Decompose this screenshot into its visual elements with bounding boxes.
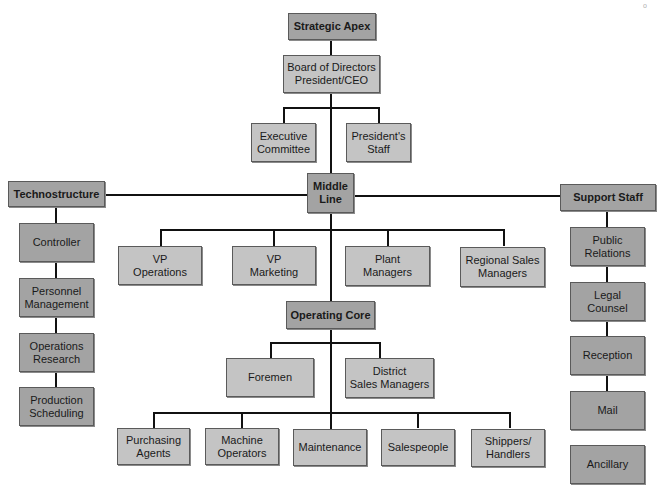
presidents-staff-box: President's Staff bbox=[346, 123, 411, 162]
middle-line-header: Middle Line bbox=[307, 173, 354, 213]
connector-core-branch bbox=[270, 342, 380, 344]
connector-spine-core-bottom bbox=[330, 330, 332, 430]
corner-mark: o bbox=[643, 2, 647, 9]
personnel-management-box: Personnel Management bbox=[19, 278, 94, 317]
public-relations-box: Public Relations bbox=[570, 227, 645, 266]
connector-exec bbox=[283, 107, 285, 123]
connector-vp-mkt bbox=[273, 229, 275, 246]
connector-shippers bbox=[509, 412, 511, 428]
vp-marketing-box: VP Marketing bbox=[232, 246, 316, 285]
connector-purchasing bbox=[153, 412, 155, 428]
executive-committee-box: Executive Committee bbox=[251, 123, 316, 162]
technostructure-header: Technostructure bbox=[8, 181, 105, 207]
operations-research-box: Operations Research bbox=[19, 333, 94, 372]
connector-spine-board-middle bbox=[330, 93, 332, 173]
ancillary-box: Ancillary bbox=[570, 445, 645, 484]
regional-sales-managers-box: Regional Sales Managers bbox=[460, 247, 545, 287]
connector-district bbox=[379, 342, 381, 358]
connector-foremen bbox=[270, 342, 272, 358]
connector-exec-branch bbox=[283, 107, 379, 109]
connector-support-staff bbox=[354, 195, 560, 197]
board-of-directors-box: Board of Directors President/CEO bbox=[283, 55, 380, 93]
district-sales-managers-box: District Sales Managers bbox=[345, 358, 434, 398]
mail-box: Mail bbox=[570, 391, 645, 430]
purchasing-agents-box: Purchasing Agents bbox=[117, 428, 190, 465]
connector-middle-branch bbox=[160, 229, 504, 231]
maintenance-box: Maintenance bbox=[293, 429, 367, 466]
support-staff-header: Support Staff bbox=[560, 184, 656, 211]
machine-operators-box: Machine Operators bbox=[205, 428, 279, 465]
org-chart-diagram: o Strategic Apex Board of Directors Pres… bbox=[0, 0, 663, 489]
reception-box: Reception bbox=[570, 336, 645, 375]
connector-spine-middle-core bbox=[330, 213, 332, 302]
strategic-apex-header: Strategic Apex bbox=[288, 13, 376, 40]
controller-box: Controller bbox=[19, 223, 94, 262]
legal-counsel-box: Legal Counsel bbox=[570, 282, 645, 321]
connector-plant bbox=[387, 229, 389, 246]
operating-core-header: Operating Core bbox=[286, 301, 375, 329]
connector-vp-ops bbox=[160, 229, 162, 246]
vp-operations-box: VP Operations bbox=[118, 246, 202, 285]
foremen-box: Foremen bbox=[226, 358, 314, 397]
connector-salespeople bbox=[417, 412, 419, 428]
connector-machine bbox=[241, 412, 243, 428]
production-scheduling-box: Production Scheduling bbox=[19, 387, 94, 426]
connector-bottom-branch bbox=[153, 412, 511, 414]
connector-apex-board bbox=[330, 40, 332, 55]
connector-staff bbox=[378, 107, 380, 123]
connector-regional bbox=[503, 229, 505, 246]
connector-technostructure bbox=[105, 194, 307, 196]
plant-managers-box: Plant Managers bbox=[345, 246, 430, 286]
salespeople-box: Salespeople bbox=[381, 429, 455, 466]
shippers-handlers-box: Shippers/ Handlers bbox=[471, 429, 545, 467]
